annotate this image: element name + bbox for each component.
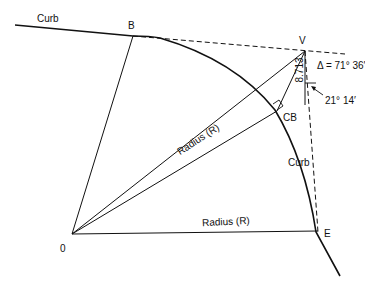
- delta-label: Δ = 71° 36′: [317, 61, 365, 71]
- point-o-label: 0: [60, 244, 66, 254]
- radius-oe: [72, 231, 318, 234]
- curb-geometry-diagram: Curb B V 8.713 Δ = 71° 36′ 21° 14′ CB Ra…: [0, 0, 365, 289]
- curb-straight-line: [15, 25, 133, 36]
- curb-label-arc: Curb: [288, 158, 310, 168]
- radius-ob: [72, 36, 133, 234]
- point-e-label: E: [324, 229, 331, 239]
- angle-label: 21° 14′: [325, 96, 356, 106]
- point-v-label: V: [299, 36, 306, 46]
- point-b-label: B: [128, 21, 135, 31]
- point-cb-label: CB: [283, 113, 297, 123]
- arrow-head-icon: [311, 86, 316, 91]
- curb-label-top: Curb: [37, 14, 59, 24]
- distance-label: 8.713: [295, 57, 305, 82]
- curb-arc: [133, 36, 340, 276]
- tangent-back: [133, 36, 345, 54]
